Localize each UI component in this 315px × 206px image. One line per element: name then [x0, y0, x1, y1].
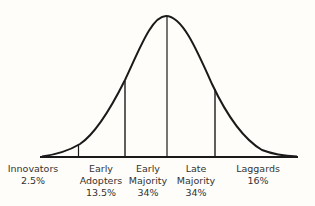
label-late-majority: Late Majority 34%	[177, 163, 215, 199]
label-early-majority: Early Majority 34%	[129, 163, 167, 199]
bell-curve	[42, 16, 297, 157]
label-innovators: Innovators 2.5%	[8, 163, 59, 187]
label-laggards: Laggards 16%	[236, 163, 280, 187]
label-early-adopters: Early Adopters 13.5%	[80, 163, 123, 199]
